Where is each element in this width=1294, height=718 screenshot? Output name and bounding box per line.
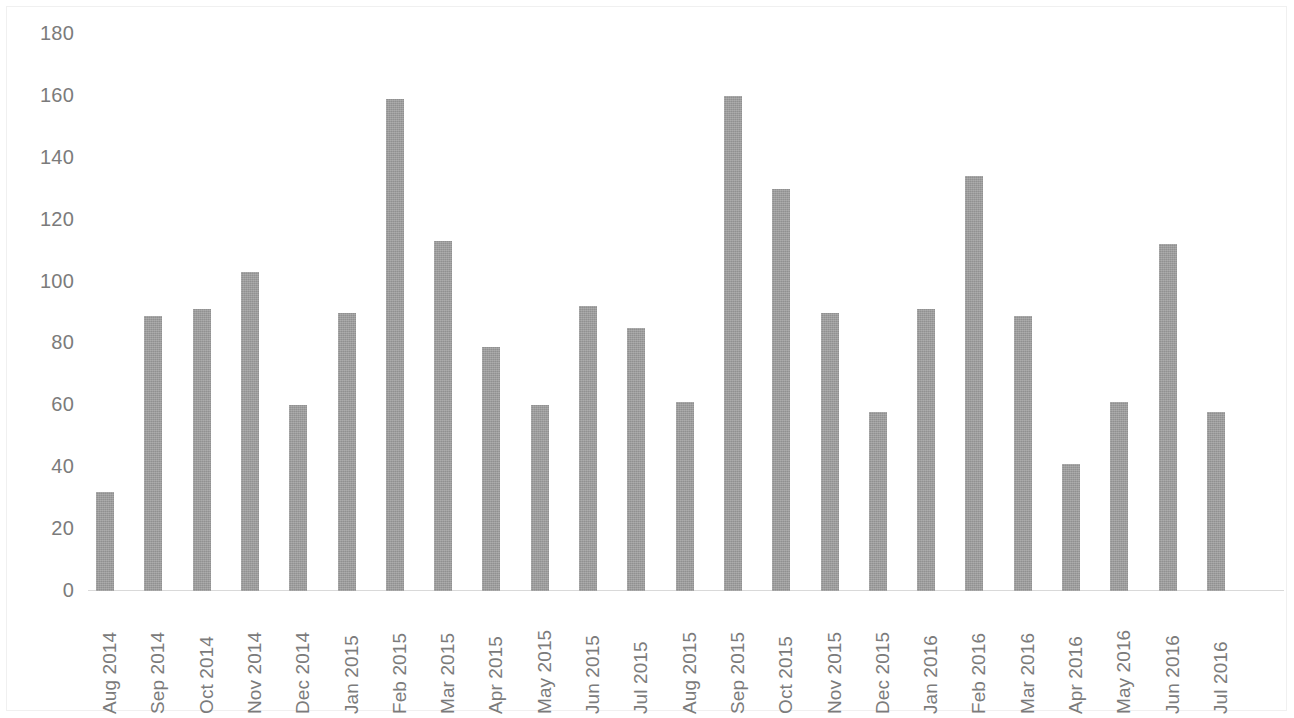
x-axis-tick-label: Feb 2016 (970, 633, 988, 714)
x-axis-tick: Aug 2015 (676, 592, 694, 718)
x-axis-tick-label: Jul 2015 (632, 641, 650, 714)
x-axis-tick-label: Mar 2016 (1019, 633, 1037, 714)
x-axis-tick-label: Aug 2015 (681, 632, 699, 714)
x-axis-tick-label: Sep 2014 (149, 632, 167, 714)
x-axis-tick: Dec 2015 (869, 592, 887, 718)
x-axis-tick: Jul 2016 (1207, 592, 1225, 718)
x-axis-tick: Mar 2015 (434, 592, 452, 718)
bar (289, 405, 307, 591)
x-axis-tick-label: May 2016 (1115, 630, 1133, 714)
bar (386, 99, 404, 591)
x-axis-tick-label: Dec 2015 (874, 632, 892, 714)
x-axis-tick: Mar 2016 (1014, 592, 1032, 718)
x-axis-tick: Sep 2014 (144, 592, 162, 718)
bar (96, 492, 114, 591)
bar (579, 306, 597, 591)
x-axis-tick-label: Jan 2016 (922, 635, 940, 714)
x-axis-tick-label: Mar 2015 (439, 633, 457, 714)
x-axis-tick: May 2015 (531, 592, 549, 718)
bar (1207, 412, 1225, 591)
x-axis-tick-label: Dec 2014 (294, 632, 312, 714)
bar (241, 272, 259, 591)
x-axis-tick-label: Jun 2015 (584, 635, 602, 714)
bar (965, 176, 983, 591)
x-axis-tick-label: Nov 2014 (246, 632, 264, 714)
bar (531, 405, 549, 591)
x-axis-tick-label: Feb 2015 (391, 633, 409, 714)
x-axis-tick-label: Jul 2016 (1212, 641, 1230, 714)
bar (1159, 244, 1177, 591)
x-axis-tick-label: Nov 2015 (826, 632, 844, 714)
x-axis-tick: Jan 2016 (917, 592, 935, 718)
x-axis-tick-label: Oct 2014 (198, 636, 216, 714)
x-axis-tick-label: May 2015 (536, 630, 554, 714)
x-axis-tick: Feb 2015 (386, 592, 404, 718)
x-axis-tick: Jun 2015 (579, 592, 597, 718)
x-axis-tick: Nov 2014 (241, 592, 259, 718)
x-axis-tick: Aug 2014 (96, 592, 114, 718)
bars-container (0, 0, 1294, 591)
x-axis-tick-label: Aug 2014 (101, 632, 119, 714)
bar (1014, 316, 1032, 591)
bar (193, 309, 211, 591)
x-axis-tick: Apr 2016 (1062, 592, 1080, 718)
x-axis: Aug 2014Sep 2014Oct 2014Nov 2014Dec 2014… (0, 592, 1294, 718)
x-axis-tick: Feb 2016 (965, 592, 983, 718)
bar (772, 189, 790, 591)
x-axis-tick-label: Apr 2016 (1067, 636, 1085, 714)
x-axis-tick-label: Sep 2015 (729, 632, 747, 714)
x-axis-tick: Oct 2015 (772, 592, 790, 718)
x-axis-tick-label: Apr 2015 (487, 636, 505, 714)
bar (917, 309, 935, 591)
x-axis-tick: Jul 2015 (627, 592, 645, 718)
x-axis-tick: May 2016 (1110, 592, 1128, 718)
bar (821, 313, 839, 592)
bar (724, 96, 742, 591)
x-axis-tick: Jun 2016 (1159, 592, 1177, 718)
bar (676, 402, 694, 591)
bar (627, 328, 645, 591)
x-axis-tick: Dec 2014 (289, 592, 307, 718)
x-axis-tick-label: Jan 2015 (343, 635, 361, 714)
bar (1062, 464, 1080, 591)
bar (869, 412, 887, 591)
bar (338, 313, 356, 592)
x-axis-tick: Nov 2015 (821, 592, 839, 718)
x-axis-tick: Apr 2015 (482, 592, 500, 718)
x-axis-tick: Sep 2015 (724, 592, 742, 718)
bar (1110, 402, 1128, 591)
bar (482, 347, 500, 591)
bar (144, 316, 162, 591)
x-axis-tick: Jan 2015 (338, 592, 356, 718)
bar-chart: 180160140120100806040200 Aug 2014Sep 201… (0, 0, 1294, 718)
x-axis-tick-label: Oct 2015 (777, 636, 795, 714)
bar (434, 241, 452, 591)
x-axis-tick: Oct 2014 (193, 592, 211, 718)
x-axis-tick-label: Jun 2016 (1164, 635, 1182, 714)
